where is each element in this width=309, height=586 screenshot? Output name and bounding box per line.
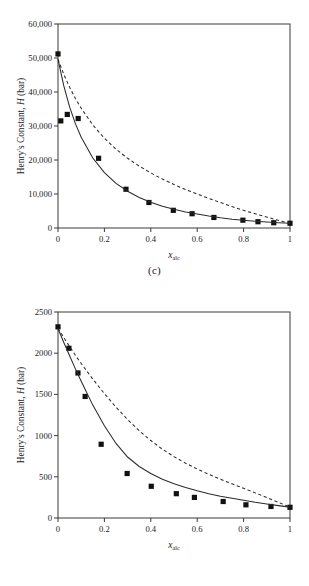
plot-area-c: 00.20.40.60.81010,00020,00030,00040,0005… bbox=[0, 0, 309, 290]
y-tick-label: 500 bbox=[39, 472, 52, 482]
chart-panel-d: 00.20.40.60.8105001000150020002500xalcHe… bbox=[0, 290, 309, 586]
x-tick-label: 0 bbox=[56, 524, 60, 534]
data-marker bbox=[221, 499, 226, 504]
y-tick-label: 20,000 bbox=[28, 155, 52, 165]
y-axis-title: Henry's Constant, H (bar) bbox=[16, 367, 27, 463]
x-tick-label: 1 bbox=[288, 524, 292, 534]
x-axis-title: xalc bbox=[167, 250, 180, 261]
data-marker bbox=[243, 502, 248, 507]
data-marker-group bbox=[55, 324, 292, 510]
x-tick-label: 0 bbox=[56, 234, 60, 244]
x-tick-label: 0.2 bbox=[99, 234, 110, 244]
y-tick-label: 10,000 bbox=[28, 189, 52, 199]
y-tick-label: 0 bbox=[48, 223, 52, 233]
x-tick-label: 0.4 bbox=[145, 524, 156, 534]
y-tick-label: 40,000 bbox=[28, 87, 52, 97]
y-axis-title: Henry's Constant, H (bar) bbox=[16, 78, 27, 174]
data-marker bbox=[174, 491, 179, 496]
y-tick-label: 50,000 bbox=[28, 53, 52, 63]
plot-frame bbox=[58, 24, 290, 228]
data-marker bbox=[149, 484, 154, 489]
y-tick-label: 1500 bbox=[35, 389, 52, 399]
data-marker bbox=[58, 118, 63, 123]
data-marker bbox=[55, 51, 60, 56]
plot-area-d: 00.20.40.60.8105001000150020002500xalcHe… bbox=[0, 290, 309, 586]
model-curve-solid bbox=[58, 328, 290, 507]
x-tick-label: 0.2 bbox=[99, 524, 110, 534]
y-tick-label: 30,000 bbox=[28, 121, 52, 131]
x-tick-label: 1 bbox=[288, 234, 292, 244]
y-tick-label: 2500 bbox=[35, 307, 52, 317]
model-curve-solid bbox=[58, 59, 290, 223]
chart-panel-c: 00.20.40.60.81010,00020,00030,00040,0005… bbox=[0, 0, 309, 290]
data-marker-group bbox=[55, 51, 292, 226]
data-marker bbox=[96, 156, 101, 161]
y-tick-label: 0 bbox=[48, 513, 52, 523]
model-curve-dashed bbox=[58, 328, 290, 507]
plot-frame bbox=[58, 312, 290, 518]
data-marker bbox=[99, 442, 104, 447]
x-tick-label: 0.8 bbox=[238, 234, 249, 244]
panel-caption-c: (c) bbox=[0, 264, 309, 276]
data-marker bbox=[192, 495, 197, 500]
data-marker bbox=[65, 112, 70, 117]
y-tick-label: 60,000 bbox=[28, 19, 52, 29]
model-curve-dashed bbox=[58, 59, 290, 223]
x-tick-label: 0.6 bbox=[192, 234, 203, 244]
x-tick-label: 0.6 bbox=[192, 524, 203, 534]
data-marker bbox=[125, 471, 130, 476]
y-tick-label: 1000 bbox=[35, 431, 52, 441]
data-marker bbox=[76, 116, 81, 121]
data-marker bbox=[83, 394, 88, 399]
figure-container: 00.20.40.60.81010,00020,00030,00040,0005… bbox=[0, 0, 309, 586]
x-axis-title: xalc bbox=[167, 540, 180, 551]
x-tick-label: 0.8 bbox=[238, 524, 249, 534]
y-tick-label: 2000 bbox=[35, 348, 52, 358]
x-tick-label: 0.4 bbox=[145, 234, 156, 244]
